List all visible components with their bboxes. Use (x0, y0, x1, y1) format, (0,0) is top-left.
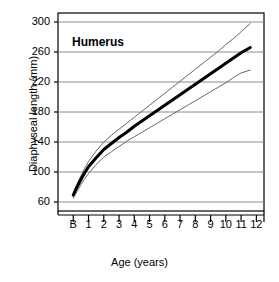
y-tick-label: 140 (20, 135, 50, 147)
chart-title: Humerus (72, 35, 124, 49)
y-tick-label: 300 (20, 15, 50, 27)
y-tick-label: 180 (20, 105, 50, 117)
x-tick-label: 12 (246, 218, 266, 230)
x-axis-label: Age (years) (0, 256, 279, 268)
y-tick-label: 60 (20, 195, 50, 207)
y-tick-label: 260 (20, 45, 50, 57)
y-tick-label: 100 (20, 165, 50, 177)
y-tick-label: 220 (20, 75, 50, 87)
chart-figure: Humerus Diaphyseal length (mm) Age (year… (0, 0, 279, 282)
